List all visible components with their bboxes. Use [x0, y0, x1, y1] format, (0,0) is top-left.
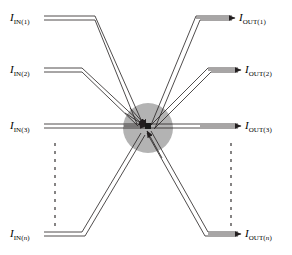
- label-out-n: IOUT(n): [245, 228, 272, 242]
- label-out-n-sub-prefix: OUT(: [249, 234, 266, 242]
- ellipsis-marker-group: [55, 143, 231, 228]
- label-out-1-sub-prefix: OUT(: [243, 18, 260, 26]
- optical-combiner-figure: IIN(1) IIN(2) IIN(3) IIN(n) IOUT(1) IOUT…: [0, 0, 292, 255]
- label-in-n: IIN(n): [10, 228, 30, 242]
- label-out-1: IOUT(1): [239, 12, 266, 26]
- label-in-1-sub-suffix: ): [27, 18, 29, 26]
- label-in-2-sub-suffix: ): [27, 70, 29, 78]
- label-out-3: IOUT(3): [245, 120, 272, 134]
- label-out-3-sub-prefix: OUT(: [249, 126, 266, 134]
- label-in-3-sub-prefix: IN(: [14, 126, 24, 134]
- waveguide-in-1: [44, 16, 146, 126]
- label-in-1: IIN(1): [10, 12, 30, 26]
- label-in-1-sub-prefix: IN(: [14, 18, 24, 26]
- label-out-2-sub-suffix: ): [269, 70, 271, 78]
- label-out-1-sub-suffix: ): [263, 18, 265, 26]
- label-out-3-sub-suffix: ): [269, 126, 271, 134]
- label-in-3-sub-suffix: ): [27, 126, 29, 134]
- label-out-2-sub-prefix: OUT(: [249, 70, 266, 78]
- label-in-2: IIN(2): [10, 64, 30, 78]
- label-out-n-sub-suffix: ): [269, 234, 271, 242]
- input-waveguide-group: [44, 16, 162, 236]
- junction-node: [145, 123, 151, 129]
- label-in-n-sub-suffix: ): [27, 234, 29, 242]
- label-in-2-sub-prefix: IN(: [14, 70, 24, 78]
- label-out-2: IOUT(2): [245, 64, 272, 78]
- label-in-3: IIN(3): [10, 120, 30, 134]
- label-in-n-sub-prefix: IN(: [14, 234, 24, 242]
